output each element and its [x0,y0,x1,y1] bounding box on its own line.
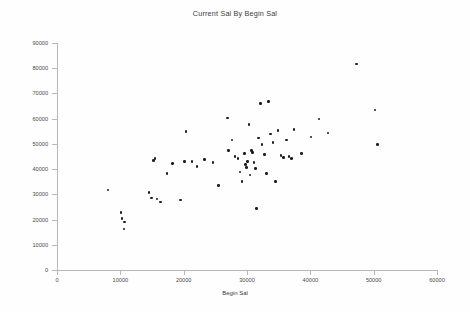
x-tick-label: 10000 [100,277,140,283]
data-point [196,165,199,168]
data-point [261,143,264,146]
scatter-chart: Current Sal By Begin Sal Current Sal Beg… [0,0,470,312]
x-tick-label: 60000 [417,277,457,283]
y-tick-mark [52,169,57,170]
y-tick-mark [52,220,57,221]
x-tick-label: 0 [37,277,77,283]
data-point [107,189,110,192]
data-point [277,129,280,132]
data-point [123,221,126,224]
data-point [282,156,285,159]
data-point [156,198,159,201]
data-point [293,128,296,131]
data-point [171,162,174,165]
data-point [376,143,379,146]
data-point [310,136,313,139]
y-tick-mark [52,119,57,120]
data-point [120,211,123,214]
y-tick-label: 10000 [0,242,48,248]
x-tick-mark [184,270,185,275]
y-tick-label: 60000 [0,116,48,122]
x-tick-mark [247,270,248,275]
x-axis-title: Begin Sal [0,290,470,296]
data-point [253,161,256,164]
data-point [226,117,229,120]
data-point [203,158,206,161]
data-point [318,118,321,121]
y-tick-mark [52,43,57,44]
y-tick-mark [52,194,57,195]
data-point [267,100,270,103]
y-tick-label: 90000 [0,40,48,46]
data-point [374,109,377,112]
data-point [243,152,246,155]
data-point [185,130,188,133]
y-tick-mark [52,245,57,246]
y-tick-label: 80000 [0,65,48,71]
data-point [159,201,162,204]
data-point [290,157,293,160]
data-point [217,184,220,187]
y-tick-label: 0 [0,267,48,273]
x-tick-mark [57,270,58,275]
data-point [257,137,260,140]
data-point [254,167,257,170]
data-point [234,155,237,158]
data-point [300,152,303,155]
x-tick-label: 30000 [227,277,267,283]
y-axis-line [57,43,58,271]
data-point [212,161,215,164]
data-point [274,180,277,183]
data-point [269,133,272,136]
y-tick-label: 70000 [0,90,48,96]
x-tick-mark [437,270,438,275]
data-point [272,141,275,144]
y-tick-mark [52,68,57,69]
data-point [231,139,234,142]
y-tick-mark [52,144,57,145]
x-tick-mark [310,270,311,275]
data-point [179,199,182,202]
data-point [227,149,230,152]
data-point [239,171,242,174]
y-tick-label: 40000 [0,166,48,172]
x-tick-mark [120,270,121,275]
data-point [255,207,258,210]
y-tick-label: 50000 [0,141,48,147]
y-tick-label: 30000 [0,191,48,197]
data-point [251,151,254,154]
data-point [241,180,244,183]
data-point [191,160,194,163]
data-point [327,132,330,135]
data-point [166,172,169,175]
data-point [237,157,240,160]
data-point [148,191,151,194]
data-point [121,217,124,220]
data-point [259,102,262,105]
data-point [246,160,249,163]
data-point [249,174,252,177]
x-tick-mark [374,270,375,275]
data-point [150,197,153,200]
data-point [355,63,358,66]
x-tick-label: 40000 [290,277,330,283]
data-point [263,153,266,156]
data-point [154,157,157,160]
x-tick-label: 20000 [164,277,204,283]
y-tick-mark [52,93,57,94]
data-point [248,123,251,126]
data-point [265,172,268,175]
y-tick-label: 20000 [0,217,48,223]
x-tick-label: 50000 [354,277,394,283]
data-point [285,139,288,142]
chart-title: Current Sal By Begin Sal [0,9,470,18]
data-point [183,160,186,163]
data-point [123,228,126,231]
data-point [245,166,248,169]
